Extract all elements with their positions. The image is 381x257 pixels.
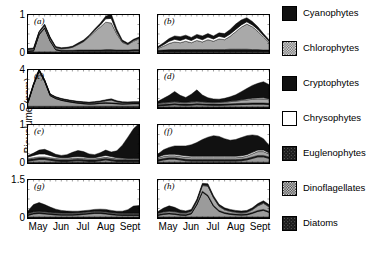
y-tick-min-e: 0 [0, 158, 25, 168]
x-axis-labels-h: MayJunJulAugSept [157, 220, 270, 233]
x-axis-labels-g: MayJunJulAugSept [27, 220, 140, 233]
y-tick-max-c: 4 [0, 65, 25, 75]
panel-e [27, 124, 140, 164]
areas [158, 82, 269, 108]
swatch-cyanophytes [282, 6, 297, 21]
swatch-diatoms [282, 216, 297, 231]
swatch-chrysophytes [282, 111, 297, 126]
legend-label: Euglenophytes [303, 148, 366, 158]
panel-g [27, 179, 140, 219]
legend-item-chlorophytes[interactable]: Chlorophytes [282, 41, 381, 57]
areas [158, 18, 269, 53]
legend-item-chrysophytes[interactable]: Chrysophytes [282, 111, 381, 127]
panel-row-3: (g)1.50MayJunJulAugSept(h)MayJunJulAugSe… [27, 179, 270, 219]
legend-item-diatoms[interactable]: Diatoms [282, 216, 381, 232]
legend-label: Cryptophytes [303, 78, 359, 88]
panel-b [157, 14, 270, 54]
y-tick-min-g: 0 [0, 213, 25, 223]
areas [28, 15, 139, 53]
legend-item-euglenophytes[interactable]: Euglenophytes [282, 146, 381, 162]
panel-grid: (a)10(b)(c)40(d)(e)10(f)(g)1.50MayJunJul… [27, 8, 270, 230]
legend-label: Dinoflagellates [303, 183, 365, 193]
legend-item-cryptophytes[interactable]: Cryptophytes [282, 76, 381, 92]
x-tick-label: May [29, 221, 48, 232]
x-tick-label: Sept [250, 221, 271, 232]
y-tick-max-e: 1 [0, 120, 25, 130]
areas [28, 70, 139, 108]
legend-label: Chrysophytes [303, 113, 361, 123]
swatch-chlorophytes [282, 41, 297, 56]
y-tick-max-a: 1 [0, 10, 25, 20]
legend: CyanophytesChlorophytesCryptophytesChrys… [282, 6, 381, 251]
legend-item-cyanophytes[interactable]: Cyanophytes [282, 6, 381, 22]
panel-c [27, 69, 140, 109]
panel-row-1: (c)40(d) [27, 69, 270, 109]
y-tick-max-g: 1.5 [0, 175, 25, 185]
legend-item-dinoflagellates[interactable]: Dinoflagellates [282, 181, 381, 197]
x-tick-label: Sept [120, 221, 141, 232]
areas [158, 135, 269, 163]
panel-f [157, 124, 270, 164]
swatch-cryptophytes [282, 76, 297, 91]
panel-d [157, 69, 270, 109]
areas [28, 203, 139, 218]
figure-root: Biovolume (ppm) (a)10(b)(c)40(d)(e)10(f)… [0, 0, 381, 257]
x-tick-label: Aug [97, 221, 115, 232]
area-cyanophytes [28, 125, 139, 158]
x-tick-label: Aug [227, 221, 245, 232]
area-cyanophytes [28, 203, 139, 214]
panel-h [157, 179, 270, 219]
x-tick-label: May [159, 221, 178, 232]
areas [158, 183, 269, 218]
swatch-euglenophytes [282, 146, 297, 161]
x-tick-label: Jul [207, 221, 220, 232]
panel-row-0: (a)10(b) [27, 14, 270, 54]
areas [28, 125, 139, 163]
swatch-dinoflagellates [282, 181, 297, 196]
area-dinoflagellates [28, 71, 139, 106]
x-tick-label: Jun [53, 221, 69, 232]
legend-label: Cyanophytes [303, 8, 358, 18]
legend-label: Chlorophytes [303, 43, 359, 53]
y-tick-min-a: 0 [0, 48, 25, 58]
legend-label: Diatoms [303, 218, 338, 228]
x-tick-label: Jun [183, 221, 199, 232]
panel-row-2: (e)10(f) [27, 124, 270, 164]
y-tick-min-c: 0 [0, 103, 25, 113]
x-tick-label: Jul [77, 221, 90, 232]
panel-a [27, 14, 140, 54]
